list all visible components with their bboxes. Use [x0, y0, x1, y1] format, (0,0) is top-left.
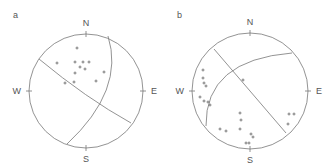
data-point: [293, 113, 296, 116]
data-point: [250, 133, 253, 136]
data-point: [103, 71, 106, 74]
west-label: W: [13, 86, 22, 96]
data-point: [252, 136, 255, 139]
panel-label: a: [13, 10, 18, 20]
data-point: [76, 47, 79, 50]
south-label: S: [83, 154, 89, 164]
north-label: N: [83, 18, 90, 28]
data-point: [205, 85, 208, 88]
data-point: [74, 72, 77, 75]
data-point: [203, 100, 206, 103]
data-point: [202, 69, 205, 72]
south-label: S: [247, 155, 253, 165]
stereonet-canvas: aNSWEbNSWE: [0, 0, 335, 168]
data-point: [82, 61, 85, 64]
data-point: [64, 82, 67, 85]
data-point: [240, 119, 243, 122]
data-point: [95, 80, 98, 83]
data-point: [203, 82, 206, 85]
data-point: [287, 123, 290, 126]
data-point: [56, 62, 59, 65]
data-point: [88, 61, 91, 64]
stereonet-figure: aNSWEbNSWE: [0, 0, 335, 168]
east-label: E: [151, 86, 157, 96]
east-label: E: [316, 86, 322, 96]
data-point: [74, 61, 77, 64]
north-label: N: [247, 17, 254, 27]
data-point: [239, 128, 242, 131]
data-point: [73, 81, 76, 84]
panel-label: b: [177, 10, 182, 20]
data-point: [84, 68, 87, 71]
data-point: [245, 142, 248, 145]
data-point: [288, 113, 291, 116]
data-point: [248, 142, 251, 145]
data-point: [199, 96, 202, 99]
data-point: [79, 66, 82, 69]
data-point: [219, 128, 222, 131]
data-point: [239, 112, 242, 115]
great-circle: [67, 36, 112, 144]
west-label: W: [176, 86, 185, 96]
primitive-circle: [29, 34, 143, 148]
data-point: [202, 77, 205, 80]
data-point: [225, 130, 228, 133]
